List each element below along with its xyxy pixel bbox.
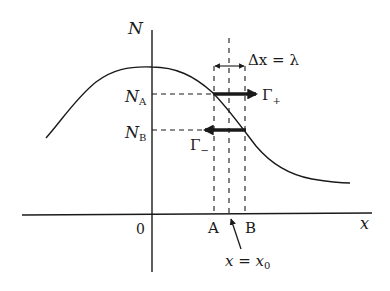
x-axis bbox=[22, 213, 372, 215]
diffusion-flux-diagram: N x 0 NA NB Δx = λ Γ+ Γ− A B x = x0 bbox=[0, 0, 390, 291]
origin-label: 0 bbox=[136, 221, 145, 237]
x0-pointer-arrow bbox=[231, 219, 241, 249]
na-label: NA bbox=[124, 87, 147, 107]
y-axis-label: N bbox=[127, 18, 144, 38]
x0-label: x = x0 bbox=[225, 252, 270, 271]
gamma-plus-label: Γ+ bbox=[262, 86, 281, 106]
x-axis-label: x bbox=[360, 214, 369, 233]
gamma-minus-label: Γ− bbox=[190, 136, 209, 156]
nb-label: NB bbox=[124, 123, 146, 143]
delta-x-label: Δx = λ bbox=[248, 51, 299, 69]
point-b-label: B bbox=[245, 219, 256, 237]
point-a-label: A bbox=[207, 219, 219, 237]
density-curve bbox=[46, 67, 350, 183]
